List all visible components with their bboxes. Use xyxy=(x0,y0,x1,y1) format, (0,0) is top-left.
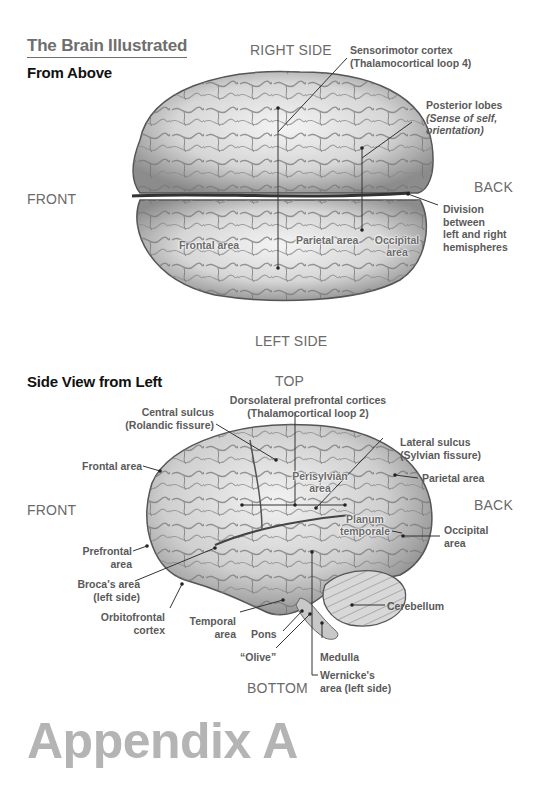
label-dorsolateral-prefrontal: Dorsolateral prefrontal cortices (Thalam… xyxy=(218,394,398,419)
label-pons: Pons xyxy=(251,628,277,641)
orientation-right-side: RIGHT SIDE xyxy=(250,42,332,58)
orientation-back-top: BACK xyxy=(474,179,513,195)
appendix-heading: Appendix A xyxy=(27,712,298,770)
label-hemisphere-division: Division between left and right hemisphe… xyxy=(443,203,508,253)
label-temporal-area: Temporal area xyxy=(180,615,236,640)
label-occipital-area-side: Occipital area xyxy=(444,524,488,549)
label-olive: “Olive” xyxy=(240,651,276,664)
label-frontal-area-top: Frontal area xyxy=(179,239,239,251)
orientation-front-side: FRONT xyxy=(27,502,76,518)
label-posterior-lobes: Posterior lobes (Sense of self, orientat… xyxy=(426,99,502,137)
side-view-subtitle: Side View from Left xyxy=(27,373,162,390)
orientation-back-side: BACK xyxy=(474,497,513,513)
label-sensorimotor-cortex: Sensorimotor cortex (Thalamocortical loo… xyxy=(350,44,471,69)
label-orbitofrontal-cortex: Orbitofrontal cortex xyxy=(85,611,165,636)
orientation-top: TOP xyxy=(275,373,304,389)
orientation-left-side: LEFT SIDE xyxy=(255,333,327,349)
label-cerebellum: Cerebellum xyxy=(387,600,444,613)
label-perisylvian-area: Perisylvian area xyxy=(290,470,350,494)
label-brocas-area: Broca's area (left side) xyxy=(50,578,140,603)
label-central-sulcus: Central sulcus (Rolandic fissure) xyxy=(120,406,214,431)
label-frontal-area-side: Frontal area xyxy=(82,460,142,473)
label-planum-temporale: Planum temporale xyxy=(333,513,397,537)
label-wernickes-area: Wernicke's area (left side) xyxy=(320,669,391,694)
label-parietal-area-top: Parietal area xyxy=(296,234,358,246)
label-prefrontal-area: Prefrontal area xyxy=(60,545,132,570)
label-medulla: Medulla xyxy=(320,651,359,664)
label-parietal-area-side: Parietal area xyxy=(422,472,484,485)
brain-top-view xyxy=(132,72,433,301)
orientation-bottom: BOTTOM xyxy=(247,680,308,696)
label-occipital-area-top: Occipital area xyxy=(372,234,422,258)
label-lateral-sulcus: Lateral sulcus (Sylvian fissure) xyxy=(400,436,481,461)
orientation-front-top: FRONT xyxy=(27,191,76,207)
